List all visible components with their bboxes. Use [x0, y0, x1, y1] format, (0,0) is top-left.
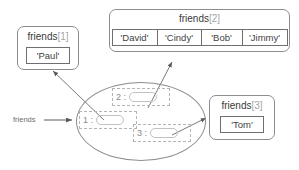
list-name: friends [27, 31, 57, 42]
dict-slot-key: 2 : [116, 92, 126, 103]
list-cell: 'David' [113, 30, 158, 45]
list-title-friends-1: friends[1] [27, 31, 68, 43]
variable-label-friends: friends [13, 115, 36, 124]
list-cell: 'Paul' [27, 48, 69, 63]
list-cells-friends-2: 'David' 'Cindy' 'Bob' 'Jimmy' [112, 29, 288, 46]
list-index: [3] [251, 100, 262, 111]
list-name: friends [179, 13, 209, 24]
list-title-friends-3: friends[3] [221, 100, 262, 112]
list-cell: 'Cindy' [158, 30, 202, 45]
list-name: friends [221, 100, 251, 111]
list-cell: 'Jimmy' [243, 30, 287, 45]
dict-slot-3: 3 : [133, 124, 191, 142]
list-cells-friends-3: 'Tom' [220, 116, 264, 133]
list-index: [2] [209, 13, 220, 24]
reference-box [96, 115, 124, 125]
list-box-friends-2: friends[2] 'David' 'Cindy' 'Bob' 'Jimmy' [109, 9, 290, 52]
list-cell: 'Tom' [221, 117, 263, 132]
list-title-friends-2: friends[2] [179, 13, 220, 25]
list-box-friends-3: friends[3] 'Tom' [209, 95, 275, 140]
list-cell: 'Bob' [202, 30, 243, 45]
diagram-canvas: friends[1] 'Paul' friends[2] 'David' 'Ci… [0, 0, 299, 170]
dict-slot-key: 3 : [137, 128, 147, 139]
dict-slot-1: 1 : [79, 111, 137, 129]
dict-slot-key: 1 : [83, 115, 93, 126]
list-index: [1] [57, 31, 68, 42]
reference-box [150, 128, 178, 138]
list-cells-friends-1: 'Paul' [26, 47, 70, 64]
list-box-friends-1: friends[1] 'Paul' [17, 26, 79, 70]
dict-slot-2: 2 : [112, 88, 170, 106]
reference-box [129, 92, 157, 102]
